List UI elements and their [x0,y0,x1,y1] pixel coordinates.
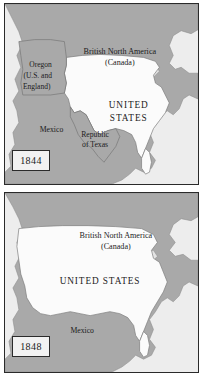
label-texas-line1: Republic [81,130,109,139]
label-canada-line1: British North America [84,47,157,56]
label-texas-line2: of Texas [82,140,108,149]
date-label-1844: 1844 [20,156,42,166]
date-label-1848: 1848 [20,342,42,352]
label-oregon-line1: Oregon [29,60,52,69]
date-cartouche-1848: 1848 [12,336,50,357]
label-canada-line2: (Canada) [101,242,131,251]
label-united-states: UNITED STATES [60,276,141,286]
label-mexico: Mexico [40,125,64,134]
label-oregon-line2: (U.S. and [23,71,52,80]
label-united-states-line2: STATES [110,113,148,123]
label-canada-line1: British North America [80,231,153,240]
map-figure: British North America (Canada) Oregon (U… [0,0,205,376]
label-canada-line2: (Canada) [105,58,135,67]
date-cartouche-1844: 1844 [12,150,50,171]
label-oregon-line3: England) [23,82,51,91]
label-united-states-line1: UNITED [109,100,149,110]
label-mexico: Mexico [70,326,94,335]
